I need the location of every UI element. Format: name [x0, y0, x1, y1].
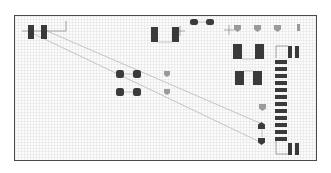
silkscreen-outline	[276, 140, 288, 154]
connector-pad	[275, 74, 287, 78]
connector-pad	[275, 60, 287, 64]
connector-pad	[275, 123, 287, 127]
smd-pad	[41, 25, 47, 39]
smd-pad	[253, 71, 262, 85]
smd-pad	[297, 24, 300, 31]
round-pad	[206, 19, 214, 25]
round-pad	[116, 70, 124, 78]
silkscreen-outline	[276, 46, 288, 58]
pentagon-pad	[164, 89, 170, 95]
smd-pad	[151, 27, 158, 42]
smd-pad	[288, 143, 292, 155]
trace-line	[47, 31, 262, 124]
smd-pad	[295, 143, 299, 155]
pentagon-pad	[258, 138, 265, 145]
connector-pad	[275, 137, 287, 141]
connector-pad	[275, 81, 287, 85]
pentagon-pad	[234, 25, 241, 32]
pentagon-pad	[259, 104, 266, 111]
smd-pad	[255, 44, 264, 59]
pcb-layout-canvas	[0, 0, 331, 173]
smd-pad	[28, 25, 34, 39]
trace-line	[34, 34, 260, 142]
connector-pad	[275, 67, 287, 71]
pentagon-pad	[164, 71, 170, 77]
pentagon-pad	[254, 25, 261, 32]
smd-pad	[235, 71, 244, 85]
connector-pad	[275, 95, 287, 99]
round-pad	[190, 19, 198, 25]
connector-pad	[275, 116, 287, 120]
connector-pad	[275, 102, 287, 106]
connector-pad	[275, 88, 287, 92]
connector-pad	[275, 109, 287, 113]
pentagon-pad	[274, 25, 281, 32]
round-pad	[133, 88, 141, 96]
round-pad	[116, 88, 124, 96]
smd-pad	[295, 46, 299, 58]
smd-pad	[288, 46, 292, 58]
round-pad	[133, 70, 141, 78]
connector-pad	[275, 130, 287, 134]
smd-pad	[233, 44, 242, 59]
smd-pad	[172, 27, 179, 42]
